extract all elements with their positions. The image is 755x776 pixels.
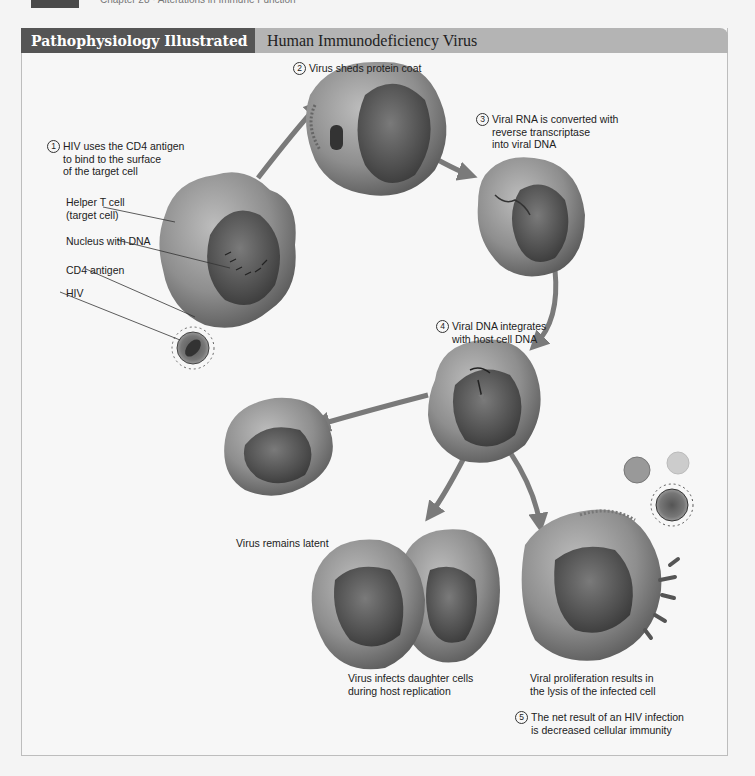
cell-shedding-coat <box>306 62 446 196</box>
step-4-label: 4Viral DNA integrates with host cell DNA <box>436 320 546 345</box>
viral-capsid-icon <box>330 125 343 150</box>
callout-helper-t-cell: Helper T cell (target cell) <box>66 196 125 221</box>
outcome-daughter-caption: Virus infects daughter cells during host… <box>348 672 473 697</box>
outcome-latent-caption: Virus remains latent <box>236 537 329 550</box>
step-1-label: 1HIV uses the CD4 antigen to bind to the… <box>47 140 184 178</box>
callout-hiv: HIV <box>66 287 84 300</box>
outcome-lysis-caption: Viral proliferation results in the lysis… <box>530 672 655 697</box>
daughter-cells <box>312 529 500 669</box>
cell-lysis <box>522 509 678 660</box>
callout-nucleus: Nucleus with DNA <box>66 235 151 248</box>
released-virions <box>624 452 693 526</box>
callout-cd4-antigen: CD4 antigen <box>66 264 124 277</box>
step-3-label: 3Viral RNA is converted with reverse tra… <box>476 113 618 151</box>
hiv-lifecycle-illustration <box>0 0 755 776</box>
step-5-label: 5The net result of an HIV infection is d… <box>515 711 684 736</box>
hiv-virion-icon <box>172 327 214 369</box>
step-2-label: 2Virus sheds protein coat <box>293 62 421 75</box>
cell-reverse-transcription <box>478 157 585 276</box>
arrow-to-lysis <box>510 452 540 525</box>
cell-latent <box>224 398 333 496</box>
cell-dna-integration <box>428 339 541 462</box>
arrow-to-latent <box>318 395 428 425</box>
helper-t-cell <box>159 172 295 328</box>
